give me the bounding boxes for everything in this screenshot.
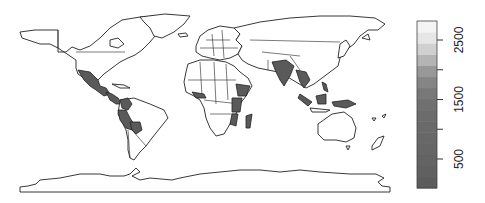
- legend-tick-label: 500: [452, 149, 466, 169]
- legend-colorbar: [417, 21, 437, 189]
- legend-segment: [417, 155, 437, 167]
- legend-segment: [417, 166, 437, 178]
- antarctica: [20, 168, 390, 192]
- legend-segment: [417, 43, 437, 55]
- new-zealand: [372, 136, 384, 150]
- africa: [184, 60, 252, 136]
- legend-ticks: 50015002500: [437, 26, 466, 169]
- europe: [196, 26, 242, 60]
- oceania: [318, 112, 386, 150]
- legend-segment: [417, 66, 437, 78]
- legend-tick-label: 2500: [452, 26, 466, 53]
- legend-segment: [417, 77, 437, 89]
- asia: [234, 16, 385, 88]
- world-map: [0, 0, 410, 203]
- iceland: [178, 33, 188, 37]
- australia: [318, 112, 356, 142]
- ethiopia-somalia: [236, 84, 250, 96]
- legend-segment: [417, 143, 437, 155]
- legend-segment: [417, 21, 437, 33]
- legend-segment: [417, 54, 437, 66]
- india: [272, 60, 294, 86]
- legend-tick-label: 1500: [452, 86, 466, 113]
- south-america: [118, 98, 168, 160]
- color-legend: 50015002500: [410, 0, 485, 203]
- legend-segment: [417, 88, 437, 100]
- madagascar: [246, 114, 252, 128]
- legend-segment: [417, 99, 437, 111]
- legend-segment: [417, 110, 437, 122]
- legend-segment: [417, 121, 437, 133]
- legend-segment: [417, 32, 437, 44]
- legend-segment: [417, 132, 437, 144]
- legend-segment: [417, 177, 437, 189]
- kenya-tanzania: [232, 98, 242, 112]
